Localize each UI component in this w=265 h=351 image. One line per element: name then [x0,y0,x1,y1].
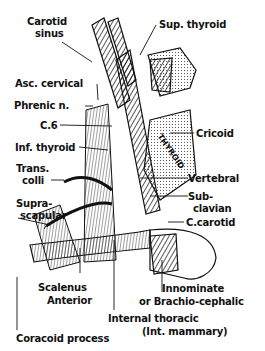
label-suprascapular-2: scapular [20,210,66,221]
label-carotid-sinus-1: Carotid [27,16,67,27]
label-internal-thoracic-1: Internal thoracic [108,313,198,324]
label-innominate-2: or Brachio-cephalic [139,296,244,307]
label-subclavian-2: clavian [193,203,232,214]
label-suprascapular-1: Supra- [16,198,52,209]
label-trans-colli-1: Trans. [16,163,49,174]
neck-anatomy-diagram: THYROID Carotid sinus Sup. thyroid Asc. … [0,0,265,351]
label-c-carotid: C.carotid [186,217,235,228]
label-cricoid: Cricoid [196,128,234,139]
label-innominate-1: Innominate [162,283,224,294]
label-asc-cervical: Asc. cervical [15,78,83,89]
label-subclavian-1: Sub- [188,191,213,202]
label-c6: C.6 [40,120,58,131]
label-phrenic-nerve: Phrenic n. [14,100,69,111]
label-sup-thyroid: Sup. thyroid [159,19,226,30]
label-trans-colli-2: colli [22,175,44,186]
label-inf-thyroid: Inf. thyroid [15,142,75,153]
label-internal-thoracic-2: (Int. mammary) [142,326,227,337]
label-vertebral: Vertebral [188,173,239,184]
label-carotid-sinus-2: sinus [35,28,64,39]
label-coracoid-process: Coracoid process [16,333,109,344]
label-scalenus-2: Anterior [47,295,92,306]
label-scalenus-1: Scalenus [38,282,87,293]
